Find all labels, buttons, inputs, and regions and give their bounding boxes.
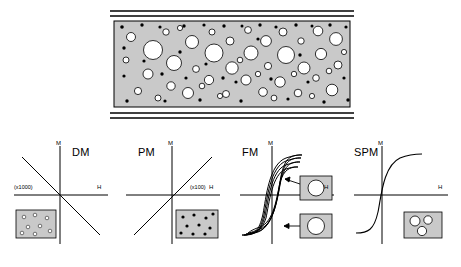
fm-label: FM — [242, 146, 258, 158]
panel-dm: M H DM (x1000) — [8, 140, 112, 258]
fm-y-axis-label: M — [268, 140, 273, 146]
spm-x-axis-label: H — [438, 184, 442, 190]
pm-label: PM — [138, 146, 155, 158]
dm-y-axis-label: M — [56, 140, 61, 146]
dm-scale-note: (x1000) — [14, 184, 33, 190]
fm-inset-particle-upper — [308, 180, 324, 196]
dm-x-axis-label: H — [97, 184, 101, 190]
dm-label: DM — [72, 146, 90, 158]
pm-y-axis-label: M — [168, 140, 173, 146]
figure-canvas: M H DM (x1000) M H PM — [0, 0, 461, 267]
fm-arrow-lower — [284, 224, 300, 229]
fm-inset-particle-lower — [308, 218, 325, 235]
panel-fm: M H FM — [238, 140, 342, 258]
fm-arrow-upper — [285, 177, 300, 184]
panel-spm: M H SPM — [352, 140, 456, 258]
pm-scale-note: (x100) — [190, 184, 206, 190]
spm-y-axis-label: M — [378, 140, 383, 146]
panel-pm: M H PM (x100) — [120, 140, 224, 258]
pm-x-axis-label: H — [209, 184, 213, 190]
microstructure-cross-section — [108, 8, 356, 126]
fm-x-axis-label: H — [324, 184, 328, 190]
spm-label: SPM — [354, 146, 378, 158]
